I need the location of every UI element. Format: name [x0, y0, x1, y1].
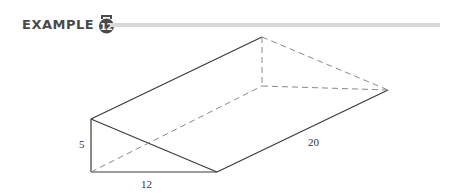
label-base: 12 — [141, 178, 152, 190]
edge-top-ridge — [91, 37, 262, 119]
edge-bottom-right-length — [217, 90, 388, 172]
edge-front-hypotenuse — [91, 119, 217, 172]
hidden-edge-back-base — [262, 86, 388, 90]
hidden-edge-bottom-left-length — [91, 86, 262, 172]
hidden-edge-back-hypotenuse — [262, 37, 388, 90]
label-height: 5 — [79, 138, 85, 150]
prism-diagram: 5 12 20 — [0, 0, 459, 196]
label-length: 20 — [308, 136, 320, 148]
